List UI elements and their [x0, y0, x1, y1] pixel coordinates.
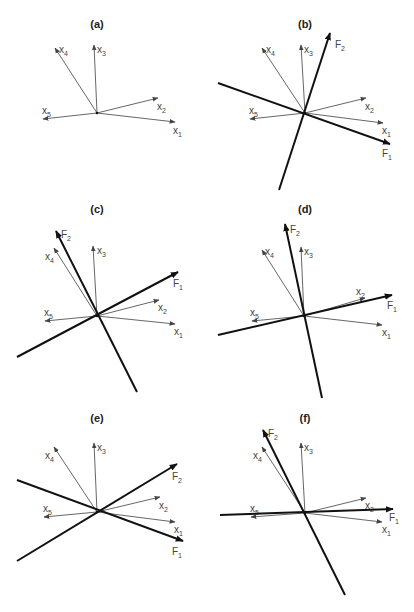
vector-label-x5: x5 [42, 105, 51, 118]
panel-d: (d)x1x2x3x4x5F1F2 [218, 203, 397, 398]
vector-label-x5-subscript: 5 [254, 111, 258, 118]
vector-label-x4-subscript: 4 [64, 50, 68, 57]
vector-label-x3-subscript: 3 [309, 448, 313, 455]
factor-rotation-figure: (a)x1x2x3x4x5(b)x1x2x3x4x5F1F2(c)x1x2x3x… [0, 0, 414, 612]
vector-label-x1: x1 [173, 125, 182, 138]
factor-label-f2: F2 [290, 224, 300, 237]
factor-label-f2-subscript: 2 [274, 434, 278, 441]
vector-x2 [305, 98, 366, 113]
vector-label-x5-subscript: 5 [48, 509, 52, 516]
factor-axis-f1 [220, 509, 393, 515]
vector-label-x5: x5 [43, 503, 52, 516]
vector-label-x3-subscript: 3 [309, 50, 313, 57]
vector-x1 [97, 113, 175, 122]
vector-label-x3: x3 [97, 245, 106, 258]
panel-label-e: (e) [90, 412, 104, 424]
vector-label-x4: x4 [59, 44, 68, 57]
vector-x2 [97, 98, 158, 113]
panel-b: (b)x1x2x3x4x5F1F2 [218, 18, 392, 190]
vector-label-x2: x2 [159, 500, 168, 513]
vector-label-x1-subscript: 1 [387, 530, 391, 537]
factor-label-f1-subscript: 1 [388, 154, 392, 161]
vector-label-x2: x2 [365, 500, 374, 513]
vector-x2 [97, 497, 160, 512]
factor-axis-f2 [279, 33, 330, 190]
vector-label-x4: x4 [45, 450, 54, 463]
vector-label-x2-subscript: 2 [164, 506, 168, 513]
vector-label-x5: x5 [249, 105, 258, 118]
vector-label-x3: x3 [97, 442, 106, 455]
vector-label-x2: x2 [158, 302, 167, 315]
vector-x5 [250, 113, 305, 119]
vector-label-x5-subscript: 5 [47, 111, 51, 118]
factor-label-f1: F1 [389, 512, 399, 525]
factor-label-f1-subscript: 1 [395, 518, 399, 525]
vector-x3 [301, 443, 305, 513]
factor-label-f2: F2 [268, 428, 278, 441]
vector-label-x3: x3 [97, 44, 106, 57]
vector-label-x3-subscript: 3 [309, 252, 313, 259]
panel-label-f: (f) [300, 412, 311, 424]
vector-x3 [301, 45, 305, 113]
factor-label-f2-subscript: 2 [296, 230, 300, 237]
vector-label-x2-subscript: 2 [370, 107, 374, 114]
factor-label-f1: F1 [173, 278, 183, 291]
vector-label-x1-subscript: 1 [179, 332, 183, 339]
vector-x1 [304, 316, 382, 325]
vector-label-x1: x1 [382, 524, 391, 537]
vector-label-x4: x4 [253, 450, 262, 463]
panel-f: (f)x1x2x3x4x5F1F2 [220, 412, 399, 595]
vector-label-x1-subscript: 1 [387, 333, 391, 340]
vector-x2 [97, 300, 159, 316]
vector-label-x4: x4 [266, 44, 275, 57]
vector-label-x1-subscript: 1 [178, 131, 182, 138]
panels-container: (a)x1x2x3x4x5(b)x1x2x3x4x5F1F2(c)x1x2x3x… [17, 18, 399, 595]
vector-x4 [55, 48, 97, 113]
vector-x4 [54, 248, 97, 316]
factor-label-f1: F1 [172, 546, 182, 559]
factor-label-f2: F2 [335, 39, 345, 52]
panel-a: (a)x1x2x3x4x5 [42, 18, 182, 138]
vector-label-x4-subscript: 4 [50, 456, 54, 463]
vector-label-x1-subscript: 1 [387, 131, 391, 138]
vector-label-x2: x2 [365, 101, 374, 114]
vector-label-x2-subscript: 2 [162, 107, 166, 114]
vector-label-x2: x2 [157, 101, 166, 114]
vector-label-x1: x1 [382, 125, 391, 138]
vector-label-x5: x5 [250, 307, 259, 320]
vector-x1 [97, 316, 175, 324]
factor-label-f2: F2 [172, 471, 182, 484]
vector-label-x2: x2 [356, 286, 365, 299]
factor-label-f1: F1 [387, 300, 397, 313]
panel-label-c: (c) [90, 203, 104, 215]
factor-label-f2-subscript: 2 [341, 45, 345, 52]
factor-label-f2-subscript: 2 [178, 477, 182, 484]
panel-e: (e)x1x2x3x4x5F1F2 [17, 412, 183, 561]
vector-x4 [262, 48, 305, 113]
factor-label-f1-subscript: 1 [178, 552, 182, 559]
vector-label-x2-subscript: 2 [361, 292, 365, 299]
factor-label-f2-subscript: 2 [67, 235, 71, 242]
origin-point [96, 112, 99, 115]
vector-label-x4-subscript: 4 [271, 50, 275, 57]
vector-label-x5: x5 [44, 307, 53, 320]
origin-point [304, 112, 307, 115]
vector-label-x3: x3 [304, 44, 313, 57]
vector-label-x3-subscript: 3 [102, 448, 106, 455]
vector-label-x5-subscript: 5 [49, 313, 53, 320]
vector-label-x4-subscript: 4 [258, 456, 262, 463]
vector-label-x1: x1 [174, 524, 183, 537]
vector-label-x3-subscript: 3 [102, 50, 106, 57]
vector-label-x2-subscript: 2 [163, 308, 167, 315]
panel-label-d: (d) [298, 203, 312, 215]
vector-label-x4-subscript: 4 [270, 252, 274, 259]
vector-label-x4: x4 [45, 251, 54, 264]
vector-x5 [43, 113, 97, 119]
vector-label-x1: x1 [174, 326, 183, 339]
vector-x1 [305, 513, 382, 522]
panel-c: (c)x1x2x3x4x5F1F2 [17, 203, 183, 392]
vector-x3 [94, 45, 97, 113]
vector-label-x4-subscript: 4 [50, 257, 54, 264]
factor-label-f1-subscript: 1 [393, 306, 397, 313]
vector-label-x5-subscript: 5 [255, 509, 259, 516]
